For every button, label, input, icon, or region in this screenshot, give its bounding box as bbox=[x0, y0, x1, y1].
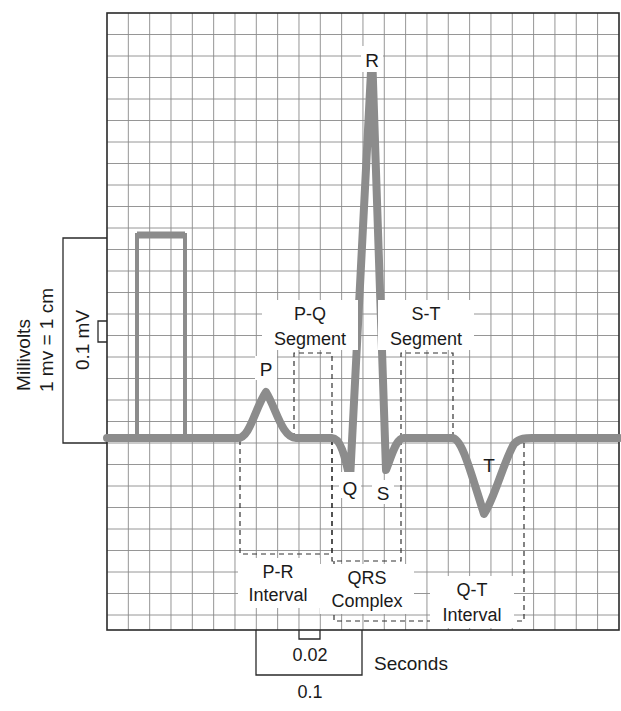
small-box-seconds-label: 0.02 bbox=[292, 645, 327, 665]
ecg-diagram: R P Q S T P-Q Segment S-T Segment P-R In… bbox=[0, 0, 621, 711]
calibration-label: 1 mv = 1 cm bbox=[36, 288, 57, 392]
pr-interval-label-1: P-R bbox=[263, 562, 294, 582]
pq-segment-box bbox=[294, 353, 332, 438]
st-segment-label-2: Segment bbox=[390, 329, 462, 349]
p-wave-label: P bbox=[260, 359, 273, 380]
seconds-axis-label: Seconds bbox=[374, 653, 448, 674]
pr-interval-box bbox=[240, 440, 332, 554]
st-segment-label-1: S-T bbox=[412, 304, 441, 324]
vertical-scale: Millivolts 1 mv = 1 cm 0.1 mV bbox=[13, 238, 107, 443]
q-wave-label: Q bbox=[343, 478, 358, 499]
pq-segment-label-2: Segment bbox=[274, 329, 346, 349]
small-box-mv-label: 0.1 mV bbox=[72, 310, 93, 371]
r-wave-label: R bbox=[365, 50, 379, 71]
pq-segment-label-1: P-Q bbox=[294, 304, 326, 324]
qrs-complex-label-2: Complex bbox=[331, 591, 402, 611]
qrs-complex-label-1: QRS bbox=[347, 568, 386, 588]
calibration-pulse bbox=[137, 235, 185, 438]
segment-labels: P-Q Segment S-T Segment bbox=[262, 300, 474, 350]
horizontal-scale: 0.02 0.1 Seconds bbox=[256, 630, 448, 702]
pr-interval-label-2: Interval bbox=[248, 585, 307, 605]
large-box-seconds-label: 0.1 bbox=[297, 682, 322, 702]
qt-interval-label-1: Q-T bbox=[457, 580, 488, 600]
millivolts-axis-label: Millivolts bbox=[13, 319, 34, 391]
interval-labels: P-R Interval QRS Complex Q-T Interval bbox=[238, 558, 514, 628]
s-wave-label: S bbox=[377, 483, 390, 504]
t-wave-label: T bbox=[483, 455, 495, 476]
qt-interval-label-2: Interval bbox=[442, 605, 501, 625]
